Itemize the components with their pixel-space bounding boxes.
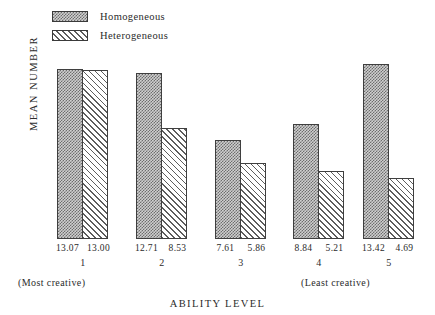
value-homogeneous-4: 8.84 — [288, 243, 319, 253]
bar-heterogeneous-5 — [388, 178, 414, 239]
bar-group-3 — [215, 50, 266, 239]
value-homogeneous-5: 13.42 — [358, 243, 389, 253]
legend-item-homogeneous: Homogeneous — [52, 8, 252, 24]
x-tick-label-2: 2 — [125, 257, 199, 268]
value-labels-group-3: 7.615.86 — [204, 243, 278, 253]
legend-swatch-dotted-icon — [52, 11, 88, 22]
legend-item-heterogeneous: Heterogeneous — [52, 27, 252, 43]
y-axis-label: MEAN NUMBER — [28, 9, 39, 159]
value-labels-group-1: 13.0713.00 — [46, 243, 120, 253]
bar-heterogeneous-2 — [161, 128, 187, 239]
x-tick-label-5: 5 — [352, 257, 426, 268]
x-axis-label: ABILITY LEVEL — [0, 298, 435, 309]
value-heterogeneous-3: 5.86 — [241, 243, 272, 253]
bar-group-4 — [293, 50, 344, 239]
plot-area — [57, 50, 429, 239]
x-tick-label-3: 3 — [204, 257, 278, 268]
chart-legend: Homogeneous Heterogeneous — [52, 8, 252, 46]
value-label-row: 13.0713.00 12.718.53 7.615.86 8.845.21 1… — [57, 243, 429, 257]
value-labels-group-5: 13.424.69 — [352, 243, 426, 253]
bar-group-2 — [136, 50, 187, 239]
bar-heterogeneous-4 — [318, 171, 344, 239]
value-homogeneous-1: 13.07 — [52, 243, 83, 253]
legend-label-heterogeneous: Heterogeneous — [100, 30, 168, 41]
value-heterogeneous-4: 5.21 — [319, 243, 350, 253]
value-heterogeneous-2: 8.53 — [162, 243, 193, 253]
value-homogeneous-2: 12.71 — [131, 243, 162, 253]
bar-group-5 — [363, 50, 414, 239]
value-heterogeneous-1: 13.00 — [83, 243, 114, 253]
bar-homogeneous-1 — [57, 69, 83, 239]
value-labels-group-4: 8.845.21 — [282, 243, 356, 253]
bar-heterogeneous-3 — [240, 163, 266, 239]
x-tick-label-4: 4 — [282, 257, 356, 268]
bar-homogeneous-3 — [215, 140, 241, 239]
value-labels-group-2: 12.718.53 — [125, 243, 199, 253]
bar-homogeneous-4 — [293, 124, 319, 239]
bar-group-1 — [57, 50, 108, 239]
bar-homogeneous-5 — [363, 64, 389, 239]
x-axis-tick-labels: 1 2 3 4 5 — [57, 257, 429, 271]
legend-label-homogeneous: Homogeneous — [100, 11, 165, 22]
value-homogeneous-3: 7.61 — [210, 243, 241, 253]
value-heterogeneous-5: 4.69 — [389, 243, 420, 253]
annotation-most-creative: (Most creative) — [18, 277, 85, 288]
x-tick-label-1: 1 — [46, 257, 120, 268]
bar-homogeneous-2 — [136, 73, 162, 239]
annotation-least-creative: (Least creative) — [301, 277, 370, 288]
bar-heterogeneous-1 — [82, 70, 108, 239]
legend-swatch-hatch-icon — [52, 30, 88, 41]
bar-chart: Homogeneous Heterogeneous MEAN NUMBER — [0, 0, 435, 315]
